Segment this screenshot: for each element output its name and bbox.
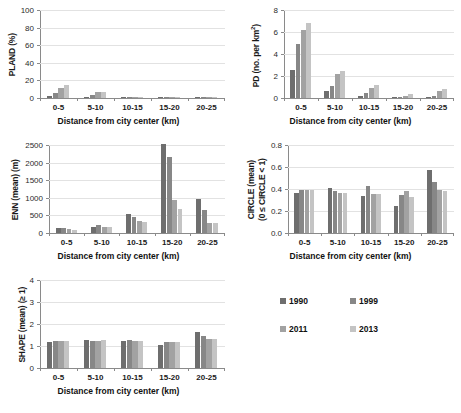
enn-x-tick-mark (224, 233, 225, 236)
bar-1990-5-10 (324, 91, 329, 98)
bar-1990-15-20 (394, 206, 399, 234)
bar-group (195, 280, 218, 368)
bar-2011-0-5 (58, 88, 63, 98)
bar-1990-10-15 (358, 96, 363, 98)
shape-y-tick-label: 0 (0, 364, 34, 373)
enn-y-tick-label: 2500 (9, 141, 43, 150)
bar-group (121, 10, 144, 98)
legend-label-1990: 1990 (289, 296, 308, 306)
pd-y-tick-label: 2 (244, 72, 278, 81)
pd-x-tick-mark (420, 98, 421, 101)
pd-x-tick-mark (318, 98, 319, 101)
pland-x-tick-mark (114, 98, 115, 101)
legend-item-1990: 1990 (280, 296, 308, 306)
bar-2011-0-5 (58, 341, 63, 369)
bar-1990-5-10 (84, 97, 89, 98)
bar-2013-0-5 (64, 85, 69, 98)
bar-2013-10-15 (138, 341, 143, 368)
bar-1999-15-20 (164, 342, 169, 368)
legend-item-2011: 2011 (280, 324, 307, 334)
bar-group (196, 145, 218, 233)
chart-panel-enn: ENN (mean) (m) 050010001500200025000-55-… (0, 139, 237, 267)
chart-panel-circle: CIRCLE (mean) (0 ≤ CIRCLE < 1) 0.00.20.4… (240, 139, 461, 267)
shape-y-tick-label: 3 (0, 298, 34, 307)
chart-panel-pd: PD (no. per km2) 024680-55-1010-1515-202… (240, 4, 461, 132)
bar-1990-0-5 (47, 96, 52, 98)
bar-2011-5-10 (95, 92, 100, 98)
bar-1990-15-20 (158, 97, 163, 98)
shape-x-tick-label-0-5: 0-5 (53, 373, 65, 382)
bar-group (84, 10, 107, 98)
circle-y-tick-mark (285, 145, 288, 146)
shape-x-axis (40, 368, 225, 369)
pland-x-tick-label-5-10: 5-10 (87, 103, 103, 112)
pland-x-tick-label-0-5: 0-5 (53, 103, 65, 112)
enn-y-tick-label: 1000 (9, 193, 43, 202)
bar-2011-5-10 (102, 227, 107, 233)
shape-y-tick-label: 1 (0, 342, 34, 351)
bar-1999-20-25 (432, 182, 437, 233)
bar-2011-20-25 (437, 91, 442, 98)
pland-y-tick-mark (37, 45, 40, 46)
bar-1990-10-15 (361, 196, 366, 233)
bar-2013-0-5 (72, 230, 77, 233)
bar-1999-20-25 (201, 97, 206, 98)
shape-y-tick-label: 4 (0, 276, 34, 285)
enn-y-tick-mark (46, 163, 49, 164)
pd-x-tick-label-10-15: 10-15 (359, 103, 379, 112)
enn-y-axis (49, 145, 50, 233)
circle-y-tick-label: 0.6 (248, 163, 282, 172)
bar-group (195, 10, 218, 98)
bar-group (427, 145, 448, 233)
pd-x-tick-mark (386, 98, 387, 101)
bar-1990-20-25 (427, 170, 432, 233)
enn-x-tick-label-10-15: 10-15 (127, 238, 147, 247)
bar-2011-0-5 (67, 229, 72, 233)
bar-2011-20-25 (206, 97, 211, 98)
bar-1999-15-20 (167, 157, 172, 233)
legend-item-2013: 2013 (350, 324, 378, 334)
bar-group (91, 145, 113, 233)
bar-group (328, 145, 349, 233)
bar-2011-20-25 (206, 339, 211, 368)
bar-2011-15-20 (169, 97, 174, 98)
bar-1990-15-20 (161, 144, 166, 233)
bar-1999-15-20 (398, 97, 403, 98)
pland-x-tick-mark (224, 98, 225, 101)
bar-2011-10-15 (132, 97, 137, 98)
shape-x-axis-label: Distance from city center (km) (0, 386, 237, 396)
bar-group (56, 145, 78, 233)
circle-x-axis-label: Distance from city center (km) (240, 251, 461, 261)
circle-y-tick-mark (285, 189, 288, 190)
bar-1990-5-10 (328, 188, 333, 233)
bar-2011-15-20 (169, 342, 174, 368)
legend-item-1999: 1999 (350, 296, 378, 306)
enn-y-tick-mark (46, 198, 49, 199)
bar-group (47, 10, 70, 98)
bar-1990-15-20 (392, 97, 397, 98)
bar-2013-5-10 (101, 92, 106, 98)
bar-1999-10-15 (127, 340, 132, 368)
bar-1999-0-5 (61, 228, 66, 233)
circle-x-axis (288, 233, 454, 234)
bar-1999-10-15 (127, 97, 132, 98)
shape-y-tick-label: 2 (0, 320, 34, 329)
enn-x-tick-mark (49, 233, 50, 236)
enn-x-tick-label-20-25: 20-25 (197, 238, 217, 247)
bar-2013-15-20 (409, 197, 414, 233)
bar-2013-15-20 (175, 342, 180, 368)
bar-1999-5-10 (330, 86, 335, 98)
shape-x-tick-mark (188, 368, 189, 371)
bar-2011-20-25 (207, 223, 212, 233)
pland-y-tick-label: 80 (0, 23, 34, 32)
pland-y-axis (40, 10, 41, 98)
pland-x-tick-mark (77, 98, 78, 101)
enn-plot-area: 050010001500200025000-55-1010-1515-2020-… (49, 145, 225, 233)
pland-y-tick-mark (37, 28, 40, 29)
circle-x-tick-label-15-20: 15-20 (394, 238, 414, 247)
enn-y-tick-mark (46, 145, 49, 146)
circle-y-tick-label: 0.4 (248, 185, 282, 194)
bar-1990-5-10 (84, 340, 89, 368)
bar-group (392, 10, 413, 98)
pd-y-tick-mark (281, 76, 284, 77)
